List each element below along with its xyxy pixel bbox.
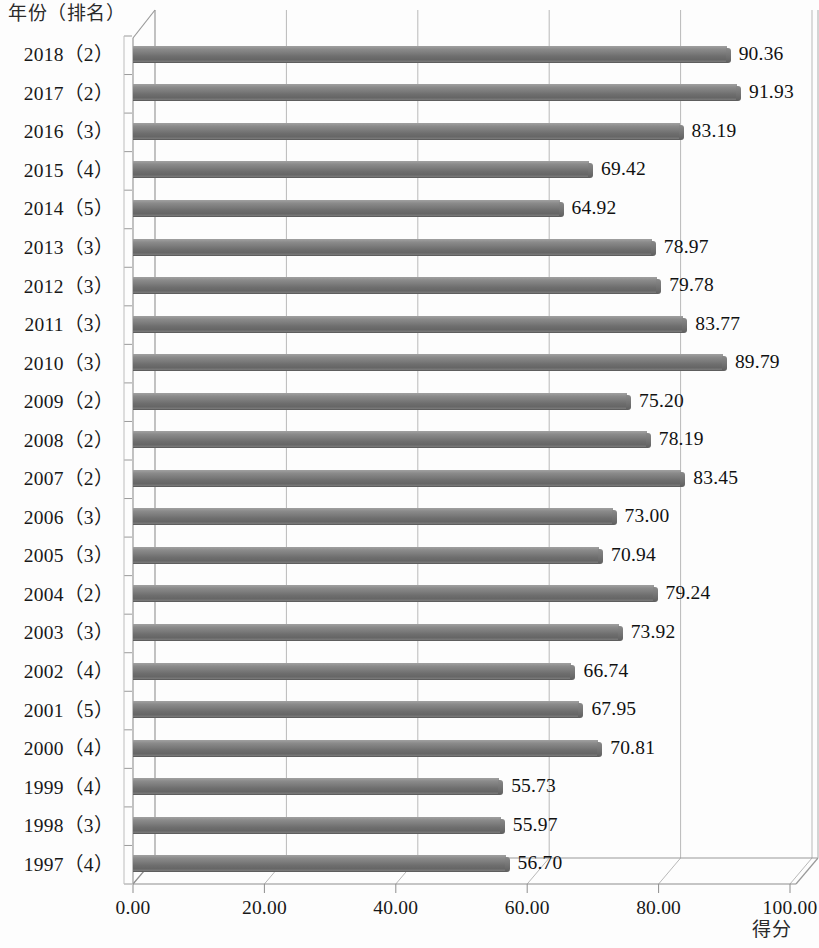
bar	[133, 200, 560, 217]
bar	[133, 663, 571, 680]
bar-value-label: 66.74	[583, 661, 628, 681]
bar-value-label: 83.45	[693, 468, 738, 488]
bar-row: 70.81	[0, 740, 819, 762]
bar-value-label: 73.92	[631, 622, 676, 642]
bar-chart: 年份（排名） 2018（2）2017（2）2016（3）2015（4）2014（…	[0, 0, 819, 948]
bar-row: 83.77	[0, 316, 819, 338]
x-axis-tick-label: 40.00	[373, 896, 418, 920]
bar-value-label: 91.93	[749, 82, 794, 102]
bar-row: 78.97	[0, 239, 819, 261]
bar-value-label: 55.73	[511, 776, 556, 796]
bar-row: 73.92	[0, 624, 819, 646]
bar-value-label: 69.42	[601, 159, 646, 179]
bar-value-label: 67.95	[591, 699, 636, 719]
bar	[133, 161, 589, 178]
bar	[133, 277, 657, 294]
bar	[133, 431, 647, 448]
x-axis-tick-label: 0.00	[116, 896, 151, 920]
bar-row: 69.42	[0, 161, 819, 183]
bar-row: 56.70	[0, 855, 819, 877]
bar-value-label: 79.78	[669, 275, 714, 295]
bar-value-label: 89.79	[735, 352, 780, 372]
bar-value-label: 56.70	[518, 853, 563, 873]
bars-and-data-labels: 90.3691.9383.1969.4264.9278.9779.7883.77…	[0, 0, 819, 948]
bar	[133, 46, 727, 63]
bar	[133, 624, 619, 641]
bar-value-label: 70.81	[610, 738, 655, 758]
x-axis-tick-label: 60.00	[505, 896, 550, 920]
bar-row: 75.20	[0, 393, 819, 415]
bar-value-label: 83.19	[692, 121, 737, 141]
bar-value-label: 64.92	[572, 198, 617, 218]
x-axis-tick-label: 100.00	[763, 896, 818, 920]
x-axis-tick-label: 20.00	[242, 896, 287, 920]
bar-row: 67.95	[0, 701, 819, 723]
bar-row: 79.78	[0, 277, 819, 299]
bar-value-label: 79.24	[666, 583, 711, 603]
bar-value-label: 90.36	[739, 44, 784, 64]
bar	[133, 508, 613, 525]
bar	[133, 354, 723, 371]
x-axis-tick-labels: 0.0020.0040.0060.0080.00100.00	[0, 896, 819, 926]
bar	[133, 393, 627, 410]
bar	[133, 316, 683, 333]
bar-row: 78.19	[0, 431, 819, 453]
x-axis-tick-label: 80.00	[636, 896, 681, 920]
bar-row: 83.19	[0, 123, 819, 145]
bar	[133, 855, 506, 872]
x-axis-title: 得分	[752, 918, 791, 942]
bar	[133, 701, 579, 718]
bar-value-label: 78.97	[664, 237, 709, 257]
bar-row: 91.93	[0, 84, 819, 106]
bar	[133, 778, 499, 795]
bar	[133, 740, 598, 757]
bar-row: 55.97	[0, 817, 819, 839]
bar-row: 73.00	[0, 508, 819, 530]
bar-value-label: 75.20	[639, 391, 684, 411]
bar	[133, 84, 737, 101]
bar-value-label: 70.94	[611, 545, 656, 565]
bar	[133, 239, 652, 256]
bar-value-label: 55.97	[513, 815, 558, 835]
bar-row: 66.74	[0, 663, 819, 685]
bar-row: 79.24	[0, 585, 819, 607]
bar-value-label: 78.19	[659, 429, 704, 449]
bar-row: 70.94	[0, 547, 819, 569]
bar-value-label: 83.77	[695, 314, 740, 334]
bar	[133, 470, 681, 487]
bar	[133, 817, 501, 834]
bar	[133, 123, 680, 140]
bar-row: 89.79	[0, 354, 819, 376]
bar-row: 64.92	[0, 200, 819, 222]
bar-row: 55.73	[0, 778, 819, 800]
bar	[133, 585, 654, 602]
bar-row: 83.45	[0, 470, 819, 492]
bar	[133, 547, 599, 564]
bar-row: 90.36	[0, 46, 819, 68]
bar-value-label: 73.00	[625, 506, 670, 526]
